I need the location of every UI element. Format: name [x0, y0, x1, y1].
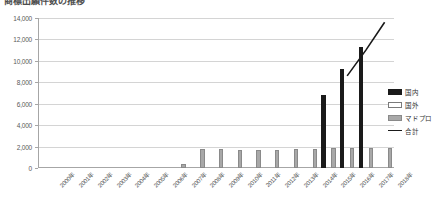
x-axis-tick-label: 2018年 [395, 170, 414, 189]
x-axis-tick-label: 2009年 [226, 170, 245, 189]
x-axis-tick-label: 2005年 [151, 170, 170, 189]
y-axis-tick-label: 0 [29, 165, 32, 172]
x-axis-tick-label: 2012年 [283, 170, 302, 189]
total-line [347, 22, 384, 76]
y-axis-tick-label: 4,000 [17, 122, 32, 129]
x-axis-tick-label: 2001年 [76, 170, 95, 189]
x-axis-tick-label: 2013年 [301, 170, 320, 189]
x-axis-tick-label: 2014年 [320, 170, 339, 189]
x-axis-tick-label: 2016年 [358, 170, 377, 189]
y-axis-tick-label: 14,000 [13, 15, 32, 22]
y-axis-tick-label: 12,000 [13, 36, 32, 43]
legend-item-madopro[interactable]: マドプロ [388, 112, 438, 123]
x-axis-labels: 2000年2001年2002年2003年2004年2005年2006年2007年… [38, 170, 394, 214]
chart-root: 商標出願件数の推移 02,0004,0006,0008,00010,00012,… [0, 0, 439, 214]
x-axis-tick-label: 2006年 [170, 170, 189, 189]
x-axis-tick-label: 2017年 [376, 170, 395, 189]
legend-label: 国内 [405, 87, 419, 97]
legend-swatch-kokugai [388, 102, 402, 108]
chart-legend: 国内国外マドプロ合計 [388, 86, 438, 138]
legend-swatch-madopro [388, 115, 402, 121]
legend-item-kokugai[interactable]: 国外 [388, 99, 438, 110]
x-axis-tick-label: 2008年 [208, 170, 227, 189]
legend-label: 国外 [405, 100, 419, 110]
legend-item-goukei[interactable]: 合計 [388, 125, 438, 136]
legend-label: マドプロ [405, 113, 432, 123]
x-axis-tick-label: 2004年 [133, 170, 152, 189]
legend-label: 合計 [405, 126, 419, 136]
chart-title: 商標出願件数の推移 [4, 0, 85, 7]
y-axis-labels: 02,0004,0006,0008,00010,00012,00014,000 [0, 18, 36, 168]
legend-swatch-kokunai [388, 89, 402, 95]
y-axis-tick-label: 8,000 [17, 79, 32, 86]
y-axis-tick-label: 10,000 [13, 57, 32, 64]
x-axis-tick-label: 2003年 [114, 170, 133, 189]
x-axis-tick-label: 2015年 [339, 170, 358, 189]
legend-item-kokunai[interactable]: 国内 [388, 86, 438, 97]
x-axis-tick-label: 2011年 [264, 170, 283, 189]
plot-area [38, 18, 394, 168]
x-axis-tick-label: 2000年 [58, 170, 77, 189]
x-axis-tick-label: 2002年 [95, 170, 114, 189]
x-axis-tick-label: 2010年 [245, 170, 264, 189]
y-axis-tick-label: 6,000 [17, 100, 32, 107]
x-axis-tick-label: 2007年 [189, 170, 208, 189]
legend-swatch-goukei [388, 130, 402, 131]
y-axis-tick-label: 2,000 [17, 143, 32, 150]
total-line-series [38, 18, 394, 168]
y-axis-tick [35, 168, 38, 169]
